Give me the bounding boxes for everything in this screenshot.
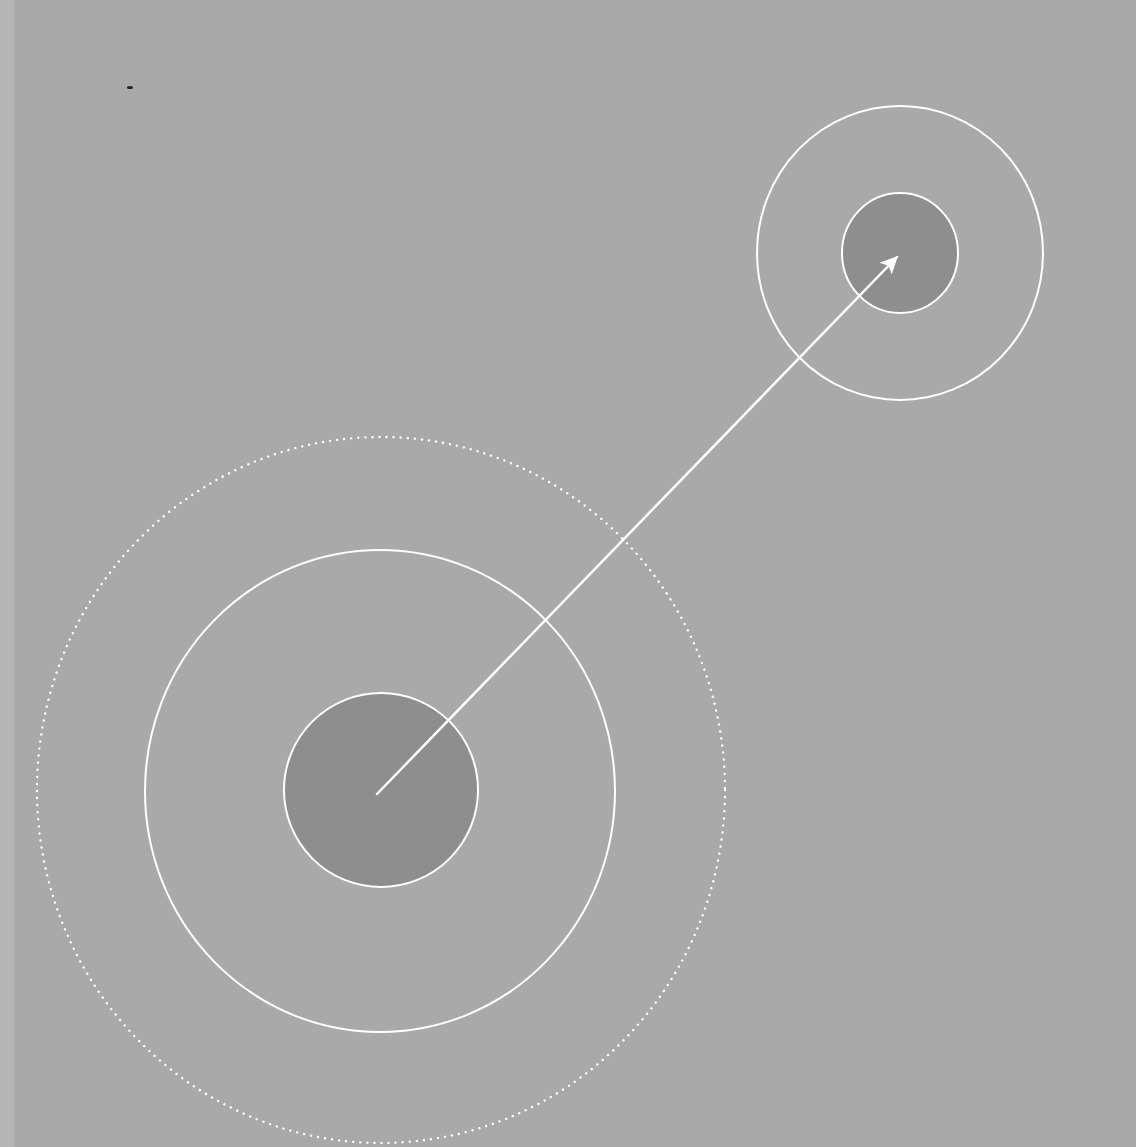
diagram-canvas [0,0,1136,1147]
connection-arrow [377,257,897,794]
